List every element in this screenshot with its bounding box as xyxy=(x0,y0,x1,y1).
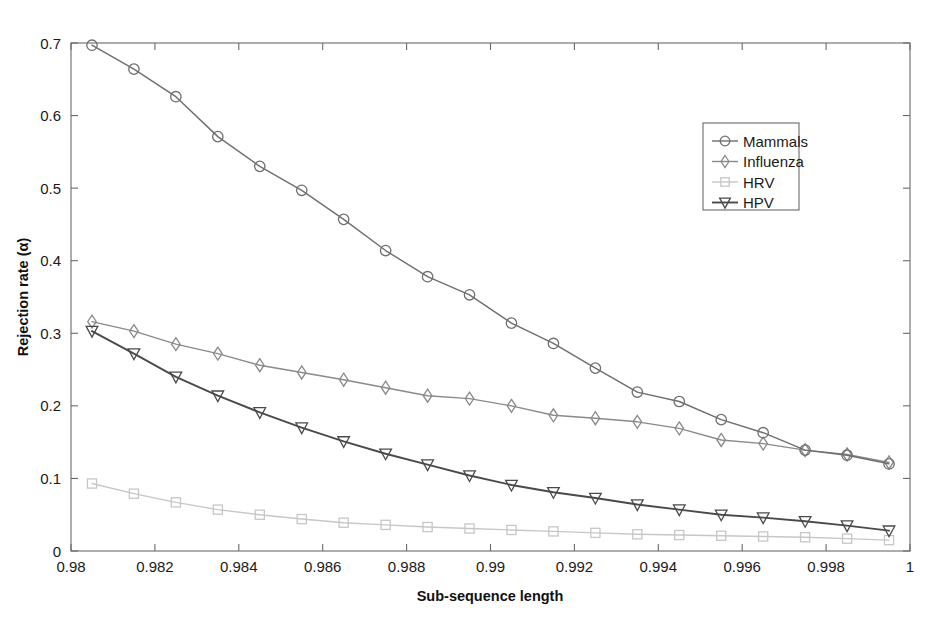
y-tick-label: 0 xyxy=(53,543,61,560)
legend-label-hpv: HPV xyxy=(743,194,774,211)
x-tick-label: 1 xyxy=(906,558,914,575)
x-tick-label: 0.998 xyxy=(807,558,845,575)
y-tick-label: 0.6 xyxy=(40,107,61,124)
rejection-rate-line-chart: 0.980.9820.9840.9860.9880.990.9920.9940.… xyxy=(0,0,949,627)
legend: MammalsInfluenzaHRVHPV xyxy=(703,123,808,211)
y-tick-label: 0.4 xyxy=(40,252,61,269)
x-tick-label: 0.986 xyxy=(304,558,342,575)
y-tick-label: 0.7 xyxy=(40,35,61,52)
y-tick-label: 0.5 xyxy=(40,180,61,197)
x-tick-label: 0.994 xyxy=(640,558,678,575)
x-tick-label: 0.984 xyxy=(220,558,258,575)
y-axis-title: Rejection rate (α) xyxy=(15,238,31,357)
legend-label-hrv: HRV xyxy=(743,174,774,191)
x-tick-label: 0.98 xyxy=(56,558,85,575)
y-tick-label: 0.1 xyxy=(40,470,61,487)
x-tick-label: 0.988 xyxy=(388,558,426,575)
x-tick-label: 0.992 xyxy=(556,558,594,575)
legend-label-mammals: Mammals xyxy=(743,133,808,150)
legend-label-influenza: Influenza xyxy=(743,153,805,170)
y-tick-label: 0.3 xyxy=(40,325,61,342)
x-axis-title: Sub-sequence length xyxy=(417,588,564,604)
x-tick-label: 0.99 xyxy=(476,558,505,575)
x-tick-label: 0.996 xyxy=(723,558,761,575)
x-tick-label: 0.982 xyxy=(136,558,174,575)
y-tick-label: 0.2 xyxy=(40,397,61,414)
